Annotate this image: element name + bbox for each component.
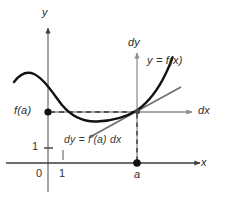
x-axis-label: x (201, 157, 207, 168)
f-of-a-label: f(a) (14, 105, 31, 116)
x-tick-one-label: 1 (59, 168, 65, 179)
y-axis-label: y (42, 7, 48, 18)
point-a-label: a (134, 169, 140, 180)
origin-label: 0 (36, 168, 42, 179)
dx-axis-label: dx (198, 105, 210, 116)
curve-label: y = f(x) (147, 55, 183, 66)
f-of-a-point-marker (44, 108, 51, 115)
tangent-equation-label: dy = f'(a) dx (64, 134, 121, 145)
dy-axis-label: dy (128, 37, 140, 48)
y-tick-one-label: 1 (32, 141, 38, 152)
point-a-marker (133, 159, 141, 167)
diagram-canvas (0, 0, 225, 200)
differential-diagram: y x dy dx y = f(x) dy = f'(a) dx f(a) 0 … (0, 0, 225, 200)
tangency-point-marker (135, 109, 140, 114)
